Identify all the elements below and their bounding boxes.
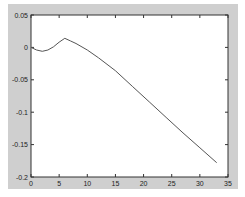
- x-tick-label: 5: [57, 180, 61, 187]
- x-tick-label: 0: [29, 180, 33, 187]
- y-tick-label: 0: [24, 44, 28, 51]
- y-tick-label: 0.05: [14, 12, 28, 19]
- x-tick-label: 30: [196, 180, 204, 187]
- y-tick-label: -0.15: [12, 141, 28, 148]
- y-tick-label: -0.1: [16, 109, 28, 116]
- y-tick-label: -0.05: [12, 76, 28, 83]
- y-tick-label: -0.2: [16, 174, 28, 181]
- x-tick-label: 20: [140, 180, 148, 187]
- x-tick-label: 15: [112, 180, 120, 187]
- x-tick-label: 10: [83, 180, 91, 187]
- axes-area: [31, 15, 228, 177]
- x-tick-label: 25: [168, 180, 176, 187]
- line-chart: 0.050-0.05-0.1-0.15-0.2 05101520253035: [0, 0, 245, 197]
- x-tick-label: 35: [224, 180, 232, 187]
